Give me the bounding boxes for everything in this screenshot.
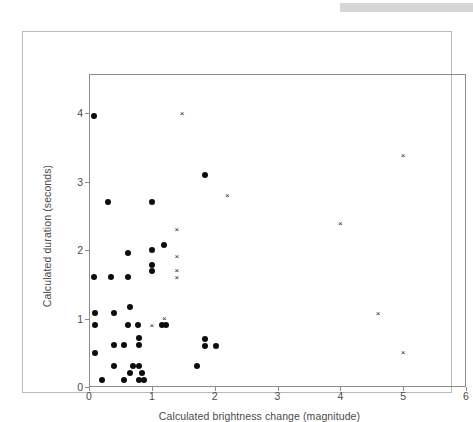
data-point-cross [375, 310, 382, 317]
x-tick-label: 6 [463, 390, 469, 402]
data-point-dot [161, 242, 167, 248]
y-tick-mark [85, 387, 89, 388]
x-tick-label: 4 [337, 390, 343, 402]
data-point-cross [173, 274, 180, 281]
plot-frame [89, 74, 466, 387]
x-tick-label: 0 [86, 390, 92, 402]
data-point-dot [149, 247, 155, 253]
data-point-cross [400, 152, 407, 159]
data-point-cross [148, 322, 155, 329]
y-tick-mark [85, 319, 89, 320]
x-axis-title: Calculated brightness change (magnitude) [23, 410, 473, 422]
data-point-dot [149, 199, 155, 205]
x-tick-label: 1 [149, 390, 155, 402]
data-point-cross [178, 110, 185, 117]
y-tick-mark [85, 113, 89, 114]
data-point-cross [173, 226, 180, 233]
data-point-dot [136, 335, 142, 341]
data-point-cross [173, 253, 180, 260]
data-point-dot [136, 342, 142, 348]
data-point-dot [202, 172, 208, 178]
data-point-dot [111, 342, 117, 348]
plot-area: 012345601234 Calculated brightness chang… [23, 32, 473, 422]
y-tick-label: 2 [71, 244, 83, 256]
data-point-cross [400, 349, 407, 356]
x-tick-label: 5 [400, 390, 406, 402]
y-tick-mark [85, 250, 89, 251]
y-tick-label: 4 [71, 107, 83, 119]
figure-panel: 012345601234 Calculated brightness chang… [22, 31, 452, 393]
data-point-dot [127, 304, 133, 310]
x-tick-label: 3 [275, 390, 281, 402]
data-point-cross [224, 192, 231, 199]
y-tick-label: 1 [71, 313, 83, 325]
data-point-dot [149, 268, 155, 274]
top-gray-bar [340, 3, 473, 12]
y-tick-label: 3 [71, 176, 83, 188]
data-point-dot [105, 199, 111, 205]
y-axis-title: Calculated duration (seconds) [41, 116, 53, 356]
data-point-cross [337, 220, 344, 227]
data-point-cross [161, 315, 168, 322]
data-point-dot [121, 377, 127, 383]
data-point-dot [213, 343, 219, 349]
y-tick-label: 0 [71, 381, 83, 393]
data-point-dot [121, 342, 127, 348]
x-tick-label: 2 [212, 390, 218, 402]
y-tick-mark [85, 182, 89, 183]
data-point-dot [99, 377, 105, 383]
